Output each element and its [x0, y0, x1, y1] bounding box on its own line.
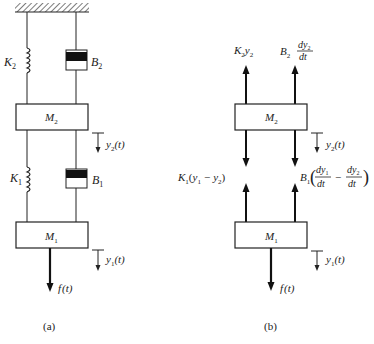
force-arrow-b1-down [292, 130, 299, 167]
label-f-b: f(t) [280, 282, 295, 295]
svg-text:dy2: dy2 [347, 164, 359, 176]
displacement-y2-a [92, 133, 104, 153]
label-k2y2: K2y2 [233, 44, 254, 59]
displacement-y1-a [92, 250, 104, 271]
svg-text:dt: dt [317, 178, 325, 189]
force-arrow-f-a [47, 248, 54, 292]
caption-a: (a) [43, 320, 56, 333]
force-arrow-k1-down [243, 130, 250, 167]
svg-text:): ) [363, 167, 369, 188]
svg-text:dy2: dy2 [298, 39, 310, 51]
diagram-canvas: K2 B2 M2 y2(t) K1 [0, 0, 374, 344]
force-arrow-b1-up [292, 183, 299, 222]
label-f-a: f(t) [58, 282, 73, 295]
displacement-y2-b [311, 133, 323, 153]
displacement-y1-b [311, 251, 323, 271]
label-b2-dy2dt: B2 dy2 dt [280, 39, 313, 62]
label-y1-b: y1(t) [325, 253, 345, 268]
svg-text:−: − [335, 171, 341, 183]
label-k1: K1 [9, 171, 22, 187]
damper-b1 [66, 130, 87, 222]
label-b2: B2 [91, 55, 102, 71]
force-arrow-k2y2 [243, 65, 250, 104]
panel-b: K2y2 B2 dy2 dt M2 y2(t) [177, 39, 369, 333]
force-arrow-b2 [292, 65, 299, 104]
ground-support [15, 3, 89, 12]
panel-a: K2 B2 M2 y2(t) K1 [3, 3, 125, 333]
label-y1-a: y1(t) [105, 253, 125, 268]
label-k1-y1-y2: K1(y1−y2) [177, 171, 226, 186]
svg-text:dt: dt [348, 178, 356, 189]
label-k2: K2 [3, 55, 16, 71]
label-b1: B1 [92, 173, 103, 189]
label-y2-a: y2(t) [105, 138, 125, 153]
svg-text:dt: dt [299, 51, 307, 62]
svg-text:dy1: dy1 [316, 164, 328, 176]
force-arrow-f-b [268, 248, 275, 291]
force-arrow-k1-up [243, 183, 250, 222]
label-b1-dy1dt-dy2dt: B1 ( dy1 dt − dy2 dt ) [300, 164, 369, 189]
spring-k2 [27, 12, 30, 104]
spring-k1 [27, 130, 30, 222]
label-y2-b: y2(t) [325, 138, 345, 153]
svg-text:B2: B2 [280, 45, 291, 60]
caption-b: (b) [264, 320, 277, 333]
damper-b2 [66, 12, 87, 104]
